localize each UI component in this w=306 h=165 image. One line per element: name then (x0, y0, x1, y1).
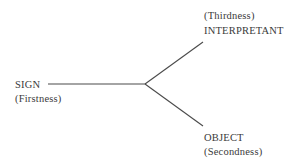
object-branch-line (145, 84, 203, 126)
object-label: OBJECT (204, 131, 244, 144)
interpretant-category: (Thirdness) (204, 9, 255, 22)
interpretant-label: INTERPRETANT (204, 24, 284, 37)
object-category: (Secondness) (204, 145, 262, 158)
sign-label: SIGN (15, 78, 40, 91)
interpretant-branch-line (145, 42, 203, 84)
sign-category: (Firstness) (15, 92, 62, 105)
